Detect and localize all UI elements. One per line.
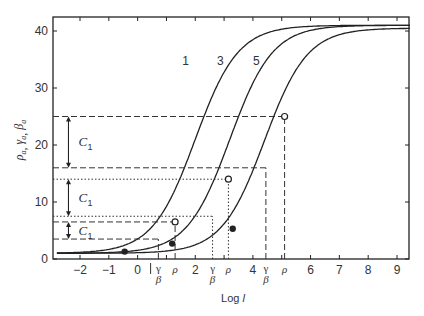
beta-marker: β <box>155 273 162 285</box>
filled-point <box>121 248 127 254</box>
y-axis-label: ρa, γa, βa <box>12 120 29 161</box>
arrowhead-down <box>66 211 71 216</box>
x-tick-label: 9 <box>394 263 401 277</box>
c1-subscript: 1 <box>87 142 92 152</box>
curve-label-1: 1 <box>182 54 189 68</box>
arrowhead-up <box>66 179 71 184</box>
curve-label-3: 3 <box>217 54 224 68</box>
open-point <box>225 176 231 182</box>
y-tick-label: 30 <box>35 81 49 95</box>
curve-5 <box>57 28 410 253</box>
open-point <box>172 219 178 225</box>
x-tick-label: 2 <box>192 263 199 277</box>
x-tick-label: 4 <box>250 263 257 277</box>
rho-marker: ρ <box>281 263 287 275</box>
y-tick-label: 20 <box>35 138 49 152</box>
arrowhead-down <box>66 163 71 168</box>
x-tick-label: −1 <box>102 263 116 277</box>
beta-marker: β <box>209 273 216 285</box>
c1-label: C <box>78 134 87 149</box>
arrowhead-up <box>66 117 71 122</box>
plot-area: −2−10246789010203040135C1C1C1γβργβργβρLo… <box>0 0 424 316</box>
x-tick-label: 8 <box>365 263 372 277</box>
arrowhead-down <box>66 234 71 239</box>
arrowhead-up <box>66 222 71 227</box>
x-tick-label: 0 <box>134 263 141 277</box>
curve-3 <box>57 25 410 253</box>
c1-subscript: 1 <box>87 231 92 241</box>
beta-marker: β <box>262 273 269 285</box>
filled-point <box>169 240 175 246</box>
y-tick-label: 40 <box>35 24 49 38</box>
chart-figure: −2−10246789010203040135C1C1C1γβργβργβρLo… <box>0 0 424 316</box>
rho-marker: ρ <box>171 263 177 275</box>
curve-label-5: 5 <box>253 54 260 68</box>
x-tick-label: 6 <box>307 263 314 277</box>
c1-label: C <box>78 190 87 205</box>
x-tick-label: −2 <box>73 263 87 277</box>
c1-subscript: 1 <box>87 198 92 208</box>
x-axis-label: Log l <box>221 292 245 304</box>
y-tick-label: 10 <box>35 195 49 209</box>
filled-point <box>230 226 236 232</box>
x-tick-label: 7 <box>336 263 343 277</box>
y-tick-label: 0 <box>41 252 48 266</box>
open-point <box>282 114 288 120</box>
c1-label: C <box>78 223 87 238</box>
curve-1 <box>57 25 410 253</box>
rho-marker: ρ <box>225 263 231 275</box>
